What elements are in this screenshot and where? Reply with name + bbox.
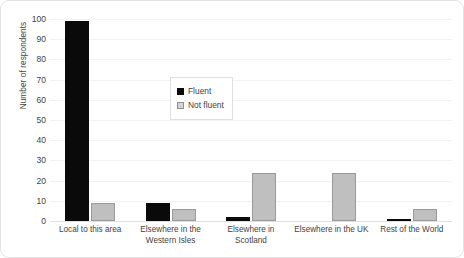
legend-swatch-fluent-icon bbox=[177, 88, 184, 95]
bar-not-fluent bbox=[332, 173, 356, 221]
x-tick-label: Local to this area bbox=[50, 225, 130, 236]
x-tick-label-line: Elsewhere in the bbox=[130, 225, 210, 236]
bar-fluent bbox=[387, 219, 411, 222]
bar-not-fluent bbox=[91, 203, 115, 221]
bar-fluent bbox=[226, 217, 250, 221]
x-axis-tick-labels: Local to this areaElsewhere in theWester… bbox=[50, 225, 452, 255]
legend-swatch-not-fluent-icon bbox=[177, 102, 184, 109]
legend-item[interactable]: Fluent bbox=[177, 86, 224, 96]
x-tick-label-line: Local to this area bbox=[50, 225, 130, 236]
chart-legend: FluentNot fluent bbox=[170, 77, 233, 120]
y-tick-label: 50 bbox=[6, 115, 46, 125]
x-tick-label-line: Elsewhere in the UK bbox=[291, 225, 371, 236]
y-tick-label: 60 bbox=[6, 95, 46, 105]
y-tick-label: 70 bbox=[6, 75, 46, 85]
bar-group bbox=[211, 19, 291, 221]
y-tick-label: 90 bbox=[6, 34, 46, 44]
y-tick-label: 100 bbox=[6, 14, 46, 24]
bar-not-fluent bbox=[252, 173, 276, 221]
y-axis-tick-labels: 1009080706050403020100 bbox=[1, 19, 46, 221]
x-tick-label-line: Rest of the World bbox=[372, 225, 452, 236]
bar-chart: Number of respondents 100908070605040302… bbox=[0, 0, 464, 258]
y-tick-label: 30 bbox=[6, 155, 46, 165]
legend-label: Not fluent bbox=[188, 100, 224, 110]
bar-group bbox=[130, 19, 210, 221]
axis-baseline bbox=[50, 221, 452, 222]
bar-group bbox=[50, 19, 130, 221]
y-tick-label: 80 bbox=[6, 54, 46, 64]
bar-not-fluent bbox=[413, 209, 437, 221]
x-tick-label-line: Elsewhere in Scotland bbox=[211, 225, 291, 246]
legend-item[interactable]: Not fluent bbox=[177, 100, 224, 110]
x-tick-label-line: Western Isles bbox=[130, 236, 210, 247]
bar-fluent bbox=[146, 203, 170, 221]
legend-label: Fluent bbox=[188, 86, 211, 96]
bar-fluent bbox=[65, 21, 89, 221]
bar-group bbox=[291, 19, 371, 221]
x-tick-label: Elsewhere in theWestern Isles bbox=[130, 225, 210, 246]
bar-group bbox=[372, 19, 452, 221]
y-tick-label: 10 bbox=[6, 196, 46, 206]
plot-area bbox=[50, 19, 452, 221]
x-tick-label: Rest of the World bbox=[372, 225, 452, 236]
y-tick-label: 20 bbox=[6, 176, 46, 186]
y-tick-label: 0 bbox=[6, 216, 46, 226]
y-tick-label: 40 bbox=[6, 135, 46, 145]
x-tick-label: Elsewhere in the UK bbox=[291, 225, 371, 236]
x-tick-label: Elsewhere in Scotland bbox=[211, 225, 291, 246]
bar-not-fluent bbox=[172, 209, 196, 221]
